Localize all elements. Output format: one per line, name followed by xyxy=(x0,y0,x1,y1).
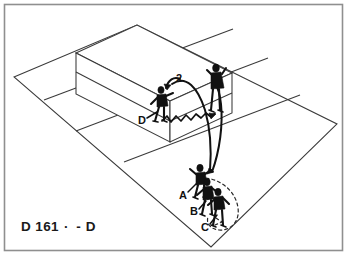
caption-tail: D xyxy=(86,219,96,234)
caption-code: D 161 xyxy=(21,219,59,234)
label-player-d: D xyxy=(138,114,146,126)
label-player-c: C xyxy=(201,221,209,233)
label-player-a: A xyxy=(179,189,187,201)
figure-caption: D 161· -D xyxy=(21,219,96,234)
label-sequence-2: 2 xyxy=(176,72,182,84)
diagram-canvas: 2 D A B C D 161· -D xyxy=(0,0,347,255)
caption-separator: · - xyxy=(64,219,83,234)
label-player-b: B xyxy=(190,205,198,217)
diagram-svg: 2 D A B C xyxy=(0,0,347,255)
